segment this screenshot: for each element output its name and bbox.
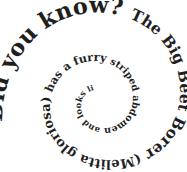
spiral-text-svg: Did you know? The Big Beet Borer (Melitt… bbox=[0, 0, 187, 172]
spiral-run-6: abdomen bbox=[100, 95, 142, 137]
spiral-run-7: and looks bbox=[73, 86, 101, 136]
spiral-run-4: has a furry bbox=[42, 50, 113, 94]
spiral-text-content: Did you know? The Big Beet Borer (Melitt… bbox=[0, 0, 187, 172]
spiral-run-9: bee. bbox=[0, 0, 3, 2]
spiral-run-5: striped bbox=[109, 55, 142, 95]
spiral-text-graphic: Did you know? The Big Beet Borer (Melitt… bbox=[0, 0, 187, 172]
